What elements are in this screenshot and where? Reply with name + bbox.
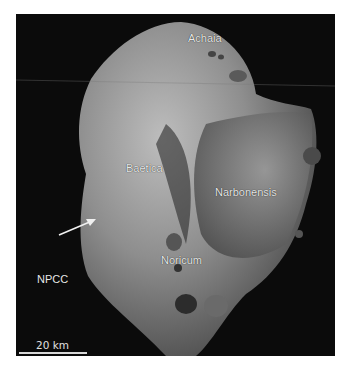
scale-bar-label: 20 km <box>36 339 69 351</box>
region-label-baetica: Baetica <box>126 162 163 174</box>
region-label-achaia: Achaia <box>188 32 222 44</box>
asteroid-shape <box>16 14 335 356</box>
region-label-noricum: Noricum <box>161 254 202 266</box>
region-label-narbonensis: Narbonensis <box>215 186 277 198</box>
feature-label-npcc: NPCC <box>37 273 68 285</box>
scale-bar <box>19 352 87 354</box>
asteroid-image: Achaia Baetica Narbonensis Noricum NPCC … <box>16 14 335 356</box>
